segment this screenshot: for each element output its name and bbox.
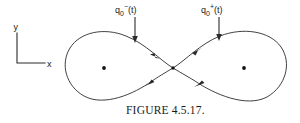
equilibrium-dots <box>102 66 246 70</box>
q-plus-argument: (t) <box>214 5 223 15</box>
q-plus-subscript: 0 <box>206 10 210 17</box>
figure-caption: FIGURE 4.5.17. <box>126 104 205 116</box>
left-focus-dot <box>102 66 106 70</box>
right-lobe-path <box>173 31 286 101</box>
homoclinic-orbit-curve <box>65 31 286 101</box>
arrow-upper-right-branch-icon <box>192 48 202 56</box>
left-lobe-path <box>65 32 173 101</box>
coordinate-axes: y x <box>14 22 53 69</box>
figure-eight-diagram: y x <box>0 0 300 123</box>
q-plus-label: q0+(t) <box>201 3 223 16</box>
x-axis-label: x <box>47 59 52 69</box>
q-minus-argument: (t) <box>128 5 137 15</box>
q-minus-subscript: 0 <box>120 10 124 17</box>
q-minus-label: q0−(t) <box>115 3 137 16</box>
right-focus-dot <box>242 66 246 70</box>
saddle-point-dot <box>171 66 174 69</box>
figure-container: y x <box>0 0 300 123</box>
y-axis-label: y <box>14 22 19 32</box>
y-axis-line <box>17 33 45 63</box>
